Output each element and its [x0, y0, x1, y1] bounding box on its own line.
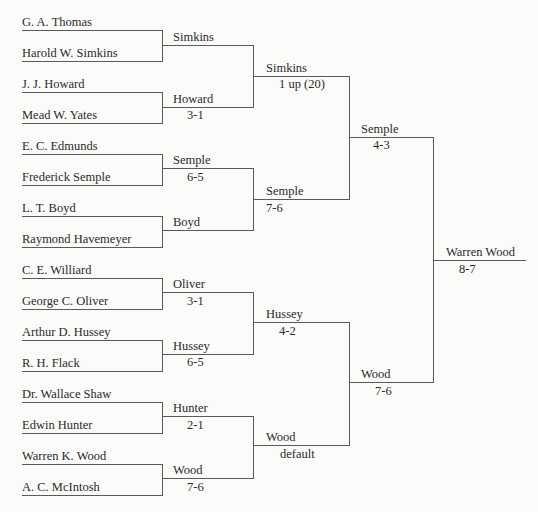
bracket-line [162, 340, 163, 372]
match-winner: Wood [173, 463, 203, 477]
match-score: 6-5 [187, 170, 204, 184]
match-score: 7-6 [187, 480, 204, 494]
bracket-line [162, 92, 163, 124]
bracket-line [349, 137, 434, 138]
bracket-line [162, 168, 254, 169]
bracket-line [162, 154, 163, 186]
player-name: G. A. Thomas [22, 15, 92, 29]
player-name: Dr. Wallace Shaw [22, 387, 111, 401]
match-score: 2-1 [187, 418, 204, 432]
bracket-line [162, 230, 254, 231]
bracket-line [22, 433, 163, 434]
player-name: Harold W. Simkins [22, 46, 118, 60]
match-winner: Oliver [173, 277, 205, 291]
champion-name: Warren Wood [446, 245, 515, 259]
match-winner: Hussey [266, 307, 303, 321]
match-score: 1 up (20) [279, 77, 325, 91]
bracket-line [22, 61, 163, 62]
player-name: C. E. Williard [22, 263, 91, 277]
bracket-line [22, 185, 163, 186]
bracket-line [22, 30, 163, 31]
bracket-line [253, 322, 350, 323]
bracket-line [162, 402, 163, 434]
match-winner: Semple [361, 122, 399, 136]
match-score: 4-3 [373, 138, 390, 152]
player-name: Raymond Havemeyer [22, 232, 131, 246]
bracket-line [162, 107, 254, 108]
bracket-line [22, 495, 163, 496]
final-score: 8-7 [459, 262, 476, 276]
match-score: 7-6 [266, 201, 283, 215]
match-winner: Hussey [173, 339, 210, 353]
player-name: Frederick Semple [22, 170, 111, 184]
player-name: L. T. Boyd [22, 201, 76, 215]
bracket-line [162, 354, 254, 355]
bracket-line [253, 292, 254, 355]
bracket-line [162, 45, 254, 46]
bracket-line [22, 123, 163, 124]
bracket-line [22, 402, 163, 403]
bracket-line [162, 478, 254, 479]
bracket-line [22, 247, 163, 248]
bracket-line [22, 340, 163, 341]
match-score: 3-1 [187, 294, 204, 308]
bracket-line [162, 30, 163, 62]
match-score: 3-1 [187, 108, 204, 122]
match-winner: Wood [266, 430, 296, 444]
bracket-line [253, 416, 254, 479]
bracket-line [162, 292, 254, 293]
player-name: George C. Oliver [22, 294, 108, 308]
bracket-line [162, 278, 163, 310]
match-winner: Hunter [173, 401, 208, 415]
match-winner: Boyd [173, 215, 200, 229]
bracket-line [22, 309, 163, 310]
bracket-line [349, 382, 434, 383]
player-name: A. C. McIntosh [22, 480, 100, 494]
player-name: Edwin Hunter [22, 418, 92, 432]
match-winner: Semple [266, 184, 304, 198]
match-score: 6-5 [187, 355, 204, 369]
player-name: J. J. Howard [22, 77, 85, 91]
bracket-line [162, 216, 163, 248]
bracket-line [253, 199, 350, 200]
bracket-line [349, 322, 350, 446]
match-winner: Semple [173, 153, 211, 167]
match-winner: Wood [361, 367, 391, 381]
bracket-line [349, 76, 350, 200]
bracket-line [433, 260, 526, 261]
bracket-line [162, 464, 163, 496]
bracket-line [162, 416, 254, 417]
player-name: E. C. Edmunds [22, 139, 98, 153]
match-winner: Simkins [173, 30, 214, 44]
match-score: 4-2 [279, 324, 296, 338]
bracket-line [22, 371, 163, 372]
bracket-line [22, 92, 163, 93]
player-name: Arthur D. Hussey [22, 325, 111, 339]
bracket-line [22, 278, 163, 279]
match-winner: Howard [173, 92, 213, 106]
player-name: Warren K. Wood [22, 449, 106, 463]
player-name: Mead W. Yates [22, 108, 97, 122]
bracket-line [22, 154, 163, 155]
match-score: default [280, 447, 315, 461]
bracket-line [22, 216, 163, 217]
player-name: R. H. Flack [22, 356, 80, 370]
bracket-line [253, 445, 350, 446]
match-score: 7-6 [375, 384, 392, 398]
bracket-line [22, 464, 163, 465]
match-winner: Simkins [266, 61, 307, 75]
